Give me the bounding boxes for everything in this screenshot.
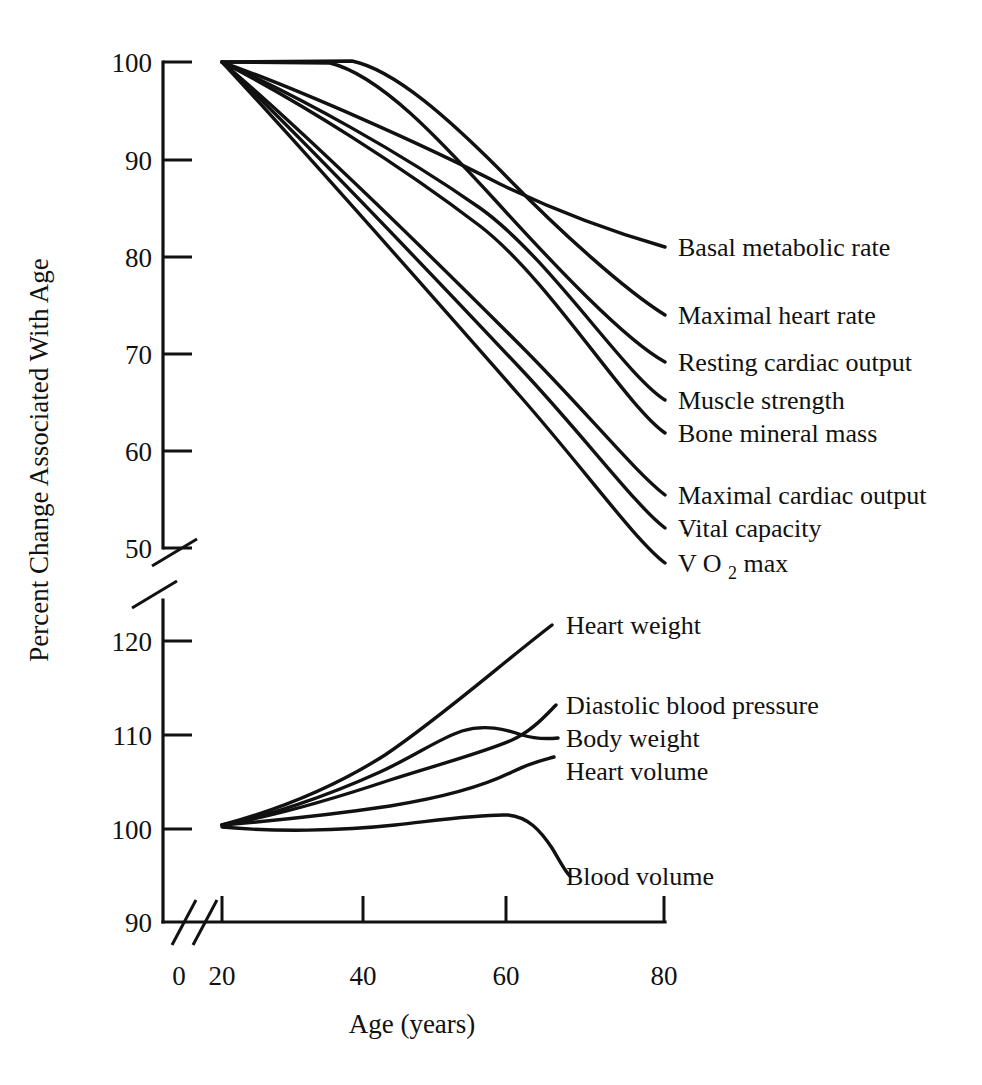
- x-tick-label-80: 80: [651, 961, 678, 991]
- series-label-basal-metabolic-rate: Basal metabolic rate: [678, 233, 890, 262]
- y-axis-title: Percent Change Associated With Age: [24, 258, 54, 661]
- x-tick-label-20: 20: [209, 961, 236, 991]
- figure-container: 100 90 80 70 60 50 120 110 100 90 0 20 4…: [0, 0, 982, 1085]
- y-tick-label-80: 80: [125, 243, 152, 273]
- x-tick-label-0: 0: [172, 961, 186, 991]
- y-axis-break-lower-slash: [132, 581, 177, 608]
- curve-basal-metabolic-rate: [222, 62, 665, 247]
- curve-blood-volume: [222, 815, 570, 876]
- curve-resting-cardiac-output: [222, 62, 665, 362]
- y-tick-label-100-lower: 100: [112, 815, 153, 845]
- series-label-maximal-cardiac-output: Maximal cardiac output: [678, 481, 927, 510]
- curve-heart-weight: [222, 625, 552, 825]
- axis-group: [132, 62, 665, 945]
- x-tick-label-40: 40: [350, 961, 377, 991]
- series-label-body-weight: Body weight: [566, 724, 700, 753]
- series-label-diastolic-blood-pressure: Diastolic blood pressure: [566, 691, 819, 720]
- y-tick-label-90: 90: [125, 146, 152, 176]
- y-tick-labels-upper: 100 90 80 70 60 50: [112, 48, 153, 564]
- x-tick-labels: 0 20 40 60 80: [172, 961, 677, 991]
- vo2-suffix: max: [744, 549, 789, 578]
- series-label-muscle-strength: Muscle strength: [678, 386, 845, 415]
- y-tick-labels-lower: 120 110 100 90: [112, 627, 153, 938]
- x-tick-label-60: 60: [493, 961, 520, 991]
- series-label-bone-mineral-mass: Bone mineral mass: [678, 419, 877, 448]
- lower-panel-curves: [222, 625, 570, 876]
- series-label-maximal-heart-rate: Maximal heart rate: [678, 301, 876, 330]
- upper-series-labels: Basal metabolic rate Maximal heart rate …: [678, 233, 927, 585]
- vo2-o: O: [703, 549, 722, 578]
- y-tick-label-60: 60: [125, 437, 152, 467]
- y-tick-label-100: 100: [112, 48, 153, 78]
- curve-vo2-max: [222, 62, 665, 563]
- lower-series-labels: Heart weight Diastolic blood pressure Bo…: [566, 611, 819, 891]
- vo2-v: V: [678, 549, 697, 578]
- series-label-heart-volume: Heart volume: [566, 757, 708, 786]
- aging-percent-change-chart: 100 90 80 70 60 50 120 110 100 90 0 20 4…: [0, 0, 982, 1085]
- series-label-resting-cardiac-output: Resting cardiac output: [678, 348, 913, 377]
- y-tick-label-50: 50: [125, 534, 152, 564]
- y-tick-label-90-lower: 90: [125, 908, 152, 938]
- upper-panel-curves: [222, 61, 665, 563]
- y-tick-label-70: 70: [125, 340, 152, 370]
- x-axis-title: Age (years): [349, 1009, 476, 1039]
- vo2-subscript: 2: [728, 563, 737, 583]
- y-tick-label-120: 120: [112, 627, 153, 657]
- series-label-vital-capacity: Vital capacity: [678, 514, 822, 543]
- curve-muscle-strength: [222, 62, 665, 400]
- curve-vital-capacity: [222, 62, 665, 528]
- y-tick-label-110: 110: [113, 721, 153, 751]
- y-axis-break-upper-slash: [152, 539, 197, 566]
- series-label-blood-volume: Blood volume: [566, 862, 714, 891]
- series-label-heart-weight: Heart weight: [566, 611, 702, 640]
